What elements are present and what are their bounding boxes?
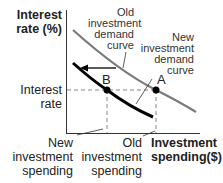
x-axis-label: Investment spending($) — [151, 136, 222, 164]
point-a-dot — [153, 87, 160, 94]
interest-rate-tick-label: Interest rate — [4, 83, 62, 111]
x-axis-label-line2: spending($) — [151, 150, 222, 164]
old-curve-label-line4: curve — [88, 40, 134, 51]
point-a-label: A — [157, 73, 166, 87]
y-axis-label: Interest rate (%) — [6, 8, 62, 36]
old-spending-label: Old investment spending — [76, 136, 142, 178]
point-b-dot — [104, 87, 111, 94]
new-curve-label-line4: curve — [140, 65, 194, 76]
interest-rate-tick-line1: Interest — [4, 83, 62, 97]
new-spending-label: New investment spending — [0, 136, 73, 178]
new-spending-line1: New — [0, 136, 73, 150]
new-curve-label: New investment demand curve — [140, 32, 194, 76]
old-curve-label: Old investment demand curve — [88, 7, 134, 51]
y-axis-label-line2: rate (%) — [6, 22, 62, 36]
new-spending-leader — [77, 129, 103, 135]
old-spending-line1: Old — [76, 136, 142, 150]
interest-rate-tick-line2: rate — [4, 97, 62, 111]
x-axis-label-line1: Investment — [151, 136, 222, 150]
old-spending-line3: spending — [76, 164, 142, 178]
old-spending-line2: investment — [76, 150, 142, 164]
new-spending-line3: spending — [0, 164, 73, 178]
point-b-label: B — [102, 73, 111, 87]
old-curve-leader — [123, 52, 126, 68]
y-axis-label-line1: Interest — [6, 8, 62, 22]
new-spending-line2: investment — [0, 150, 73, 164]
